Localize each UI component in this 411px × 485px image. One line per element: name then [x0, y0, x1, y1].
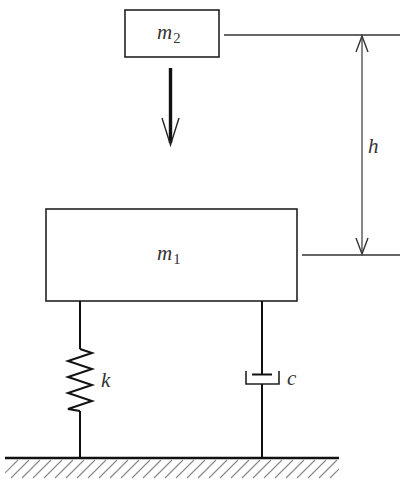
impact-system-diagram: m2 m1 h k c — [0, 0, 411, 485]
mass-m2-label: m2 — [157, 22, 181, 46]
fall-arrow-icon — [162, 68, 179, 145]
spring-icon — [68, 301, 92, 458]
damper-icon — [246, 301, 279, 458]
mass-m1-symbol: m — [157, 241, 172, 265]
damping-coefficient-label: c — [287, 368, 296, 389]
ground-icon — [0, 458, 348, 478]
height-dimension-arrow-icon — [356, 36, 368, 254]
mass-m1-subscript: 1 — [173, 251, 180, 267]
spring-constant-label: k — [101, 370, 110, 391]
diagram-canvas — [0, 0, 411, 485]
mass-m2-subscript: 2 — [173, 30, 180, 46]
mass-m2-symbol: m — [157, 20, 172, 44]
mass-m1-label: m1 — [157, 243, 181, 267]
height-label: h — [368, 136, 379, 157]
